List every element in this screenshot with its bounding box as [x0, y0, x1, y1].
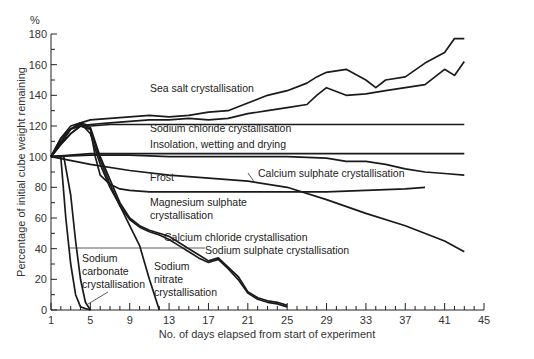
x-tick-label: 13	[163, 314, 175, 326]
x-tick-label: 29	[320, 314, 332, 326]
label-sodium-carbonate-2: carbonate	[82, 265, 129, 277]
y-axis-title: Percentage of initial cube weight remain…	[15, 67, 27, 277]
x-tick-label: 1	[48, 314, 54, 326]
label-sea-salt: Sea salt crystallisation	[150, 82, 254, 94]
label-magnesium-sulphate-2: crystallisation	[150, 209, 213, 221]
y-tick-label: 160	[29, 59, 47, 71]
x-axis-title: No. of days elapsed from start of experi…	[159, 328, 375, 340]
label-sodium-sulphate: Sodium sulphate crystallisation	[205, 244, 349, 256]
x-tick-label: 37	[399, 314, 411, 326]
y-tick-label: 60	[35, 212, 47, 224]
y-tick-label: 180	[29, 28, 47, 40]
y-tick-label: 80	[35, 181, 47, 193]
label-sodium-chloride: Sodium chloride crystallisation	[150, 122, 291, 134]
label-sodium-carbonate-3: crystallisation	[82, 278, 145, 290]
label-calcium-chloride: Calcium chloride crystallisation	[164, 231, 308, 243]
label-frost: Frost	[150, 171, 174, 183]
y-tick-label: 120	[29, 120, 47, 132]
line-chart: 0204060801001201401601801591317212529333…	[0, 0, 534, 359]
label-calcium-sulphate: Calcium sulphate crystallisation	[258, 167, 405, 179]
y-unit-label: %	[30, 14, 40, 26]
x-tick-label: 9	[127, 314, 133, 326]
x-tick-label: 45	[478, 314, 490, 326]
x-tick-label: 33	[360, 314, 372, 326]
y-tick-label: 0	[41, 304, 47, 316]
label-magnesium-sulphate-1: Magnesium sulphate	[150, 196, 247, 208]
x-tick-label: 41	[439, 314, 451, 326]
y-tick-label: 20	[35, 273, 47, 285]
label-sodium-nitrate-2: nitrate	[154, 273, 183, 285]
y-tick-label: 100	[29, 151, 47, 163]
label-sodium-carbonate-1: Sodium	[82, 252, 118, 264]
label-sodium-nitrate-3: crystallisation	[154, 286, 217, 298]
y-tick-label: 140	[29, 89, 47, 101]
leader-sodium-carbonate	[88, 292, 108, 304]
x-tick-label: 21	[242, 314, 254, 326]
y-tick-label: 40	[35, 243, 47, 255]
x-tick-label: 5	[87, 314, 93, 326]
x-tick-label: 17	[202, 314, 214, 326]
label-sodium-nitrate-1: Sodium	[154, 260, 190, 272]
x-tick-label: 25	[281, 314, 293, 326]
label-insolation: Insolation, wetting and drying	[150, 138, 286, 150]
